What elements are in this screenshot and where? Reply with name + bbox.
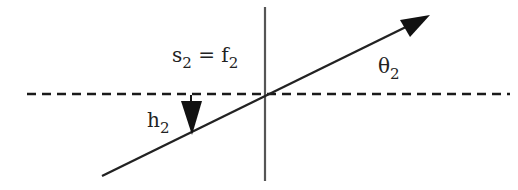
diagram-canvas: s2 = f2 θ2 h2: [0, 0, 518, 190]
vector-arrowhead-icon: [400, 15, 430, 37]
label-theta2: θ2: [378, 56, 400, 82]
diagram-lines: [0, 0, 518, 190]
label-h2: h2: [147, 110, 169, 136]
label-s2-equals-f2: s2 = f2: [172, 45, 238, 71]
h2-down-arrow-icon: [181, 101, 202, 135]
diagonal-vector-line: [102, 24, 412, 176]
